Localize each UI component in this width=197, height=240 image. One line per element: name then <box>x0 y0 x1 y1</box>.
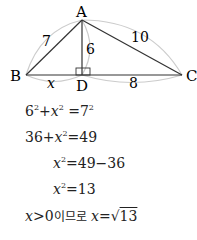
label-BD: x <box>47 75 55 91</box>
point-D: D <box>76 77 88 95</box>
equation-5: x>0이므로 x=√13 <box>25 207 137 224</box>
label-DC: 8 <box>129 75 138 91</box>
equation-1: 62+x2 =72 <box>25 103 94 119</box>
label-AD: 6 <box>86 41 95 57</box>
point-B: B <box>10 67 21 85</box>
equation-2: 36+x2=49 <box>25 129 97 145</box>
equation-4: x2=13 <box>53 181 96 197</box>
triangle-diagram: A B C D 7 6 10 x 8 <box>0 0 197 240</box>
label-AB: 7 <box>42 33 51 49</box>
point-C: C <box>186 67 197 85</box>
point-A: A <box>75 3 87 21</box>
equation-3: x2=49−36 <box>53 155 125 171</box>
label-AC: 10 <box>131 29 149 45</box>
